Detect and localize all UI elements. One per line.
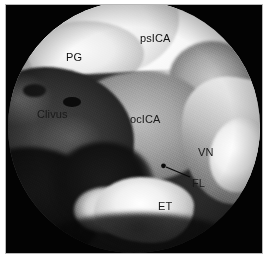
tissue-deep-shadow-left — [8, 147, 104, 253]
tissue-superior-bright-band — [8, 4, 260, 122]
photo-plate — [5, 4, 263, 254]
endoscope-vignette — [8, 4, 260, 253]
image-grain-overlay — [8, 4, 260, 253]
figure-root: psICA PG Clivus ocICA VN FL ET — [0, 0, 271, 267]
endoscopic-field-of-view — [8, 4, 260, 253]
tissue-inferior-shadow — [33, 213, 245, 253]
tissue-pituitary-gland — [28, 21, 144, 87]
label-ET: ET — [158, 201, 172, 212]
tissue-right-lateral-wedge — [169, 69, 260, 211]
tissue-right-upper-mucosa — [169, 41, 255, 117]
tissue-mid-field-mucosa — [68, 72, 214, 183]
label-psICA: psICA — [140, 33, 170, 44]
label-VN: VN — [198, 147, 213, 158]
tissue-dural-seam — [8, 69, 185, 89]
label-Clivus: Clivus — [37, 109, 68, 120]
tissue-eustachian-tube — [94, 177, 195, 243]
label-FL: FL — [192, 178, 205, 189]
tissue-deep-shadow-center — [53, 142, 154, 228]
tissue-dark-speck — [23, 84, 46, 97]
label-ocICA: ocICA — [130, 114, 160, 125]
tissue-dark-speck — [63, 97, 81, 107]
tissue-clival-bone — [8, 67, 134, 228]
label-PG: PG — [66, 52, 82, 63]
tissue-eustachian-tube-medial — [74, 187, 140, 232]
